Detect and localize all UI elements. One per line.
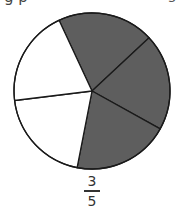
fraction-numerator: 3 [82,174,102,188]
fraction-denominator: 5 [82,194,102,208]
fraction-label: 3 5 [82,174,102,208]
fraction-bar [84,190,100,192]
